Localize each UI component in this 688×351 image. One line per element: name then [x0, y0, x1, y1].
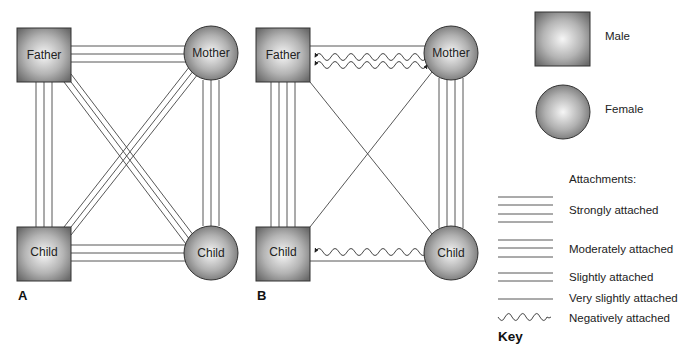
attachment-b-son-daughter-negative [315, 249, 427, 256]
legend-item-label: Strongly attached [569, 204, 659, 216]
attachment-a-son-daughter [71, 245, 186, 261]
node-a-father: Father [17, 28, 71, 82]
node-a-daughter: Child [184, 226, 238, 280]
female-circle-icon [536, 85, 590, 139]
legend-attachments-title: Attachments: [569, 173, 636, 185]
panel-b: Father Mother Child Child B [256, 26, 478, 303]
node-label: Father [266, 48, 301, 62]
panel-label-b: B [257, 288, 266, 303]
legend-strong-lines-icon [498, 197, 553, 222]
attachment-a-father-son [36, 82, 52, 227]
legend-item-label: Moderately attached [569, 243, 673, 255]
node-label: Mother [432, 46, 469, 60]
panel-label-a: A [18, 288, 28, 303]
legend-male-label: Male [605, 30, 630, 42]
attachment-b-mother-son [310, 72, 432, 227]
attachment-b-father-son [271, 82, 295, 227]
legend-female-label: Female [605, 103, 643, 115]
node-label: Child [269, 245, 296, 259]
male-square-icon [535, 12, 590, 66]
node-b-mother: Mother [424, 26, 478, 80]
legend: Male Female Attachments: Strongly attach… [498, 12, 678, 344]
legend-negative-wave-icon [498, 314, 551, 321]
node-label: Child [30, 245, 57, 259]
legend-item-label: Slightly attached [569, 271, 653, 283]
node-label: Child [437, 246, 464, 260]
node-a-mother: Mother [184, 26, 238, 80]
legend-slight-lines-icon [498, 273, 553, 281]
attachment-b-mother-daughter [439, 78, 463, 228]
panel-a: Father Mother Child Child A [17, 26, 238, 303]
node-b-daughter: Child [424, 226, 478, 280]
legend-key-label: Key [498, 329, 523, 344]
attachment-a-mother-daughter [203, 80, 219, 226]
node-a-son: Child [17, 227, 71, 281]
node-label: Child [197, 246, 224, 260]
node-label: Father [27, 48, 62, 62]
attachment-a-father-mother [71, 46, 188, 62]
legend-item-label: Negatively attached [569, 312, 670, 324]
family-attachment-diagram: Father Mother Child Child A [0, 0, 688, 351]
attachment-b-father-mother-negative [315, 54, 427, 69]
node-b-son: Child [256, 227, 310, 281]
node-label: Mother [192, 46, 229, 60]
attachment-b-father-daughter [310, 82, 432, 234]
node-b-father: Father [256, 28, 310, 82]
legend-moderate-lines-icon [498, 240, 553, 257]
legend-item-label: Very slightly attached [569, 292, 678, 304]
